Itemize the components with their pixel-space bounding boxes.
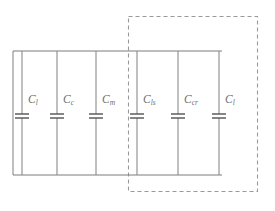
capacitor-label-c6: Cl	[225, 94, 235, 107]
capacitor-branch	[15, 51, 29, 175]
capacitor-label-c2: Cc	[63, 94, 74, 107]
capacitor-symbol: C	[28, 93, 36, 105]
capacitor-branch-group	[15, 51, 226, 175]
capacitor-symbol: C	[184, 93, 192, 105]
capacitor-label-c1: Cl	[28, 94, 38, 107]
capacitor-subscript: l	[233, 98, 235, 107]
capacitor-label-c5: Ccr	[184, 94, 198, 107]
capacitor-symbol: C	[225, 93, 233, 105]
capacitor-subscript: m	[110, 98, 116, 107]
capacitor-branch	[171, 51, 185, 175]
capacitor-label-c3: Cm	[102, 94, 115, 107]
circuit-diagram-canvas: ClCcCmClsCcrCl	[0, 0, 275, 211]
capacitor-subscript: l	[36, 98, 38, 107]
capacitor-branch	[212, 51, 226, 175]
capacitor-symbol: C	[63, 93, 71, 105]
capacitor-subscript: ls	[151, 98, 156, 107]
capacitor-symbol: C	[143, 93, 151, 105]
capacitor-branch	[89, 51, 103, 175]
capacitor-symbol: C	[102, 93, 110, 105]
capacitor-subscript: cr	[192, 98, 198, 107]
capacitor-branch	[50, 51, 64, 175]
capacitor-subscript: c	[71, 98, 74, 107]
capacitor-branch	[130, 51, 144, 175]
capacitor-label-c4: Cls	[143, 94, 156, 107]
